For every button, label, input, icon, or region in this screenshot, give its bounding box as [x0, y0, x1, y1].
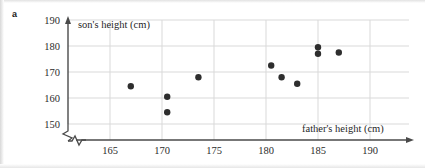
x-axis-title: father's height (cm): [302, 123, 384, 135]
data-point: [294, 81, 300, 87]
y-axis: [63, 16, 72, 141]
data-point: [278, 74, 284, 80]
data-point: [315, 44, 321, 50]
y-tick-label: 170: [44, 67, 60, 78]
x-tick-label: 165: [102, 145, 118, 156]
data-point: [128, 83, 134, 89]
data-point: [268, 62, 274, 68]
x-axis-arrowhead: [406, 137, 414, 143]
y-tick-label: 180: [44, 41, 60, 52]
x-axis-tick-labels: 165170175180185190: [102, 145, 378, 156]
y-tick-label: 150: [44, 119, 60, 130]
scatter-data-points: [128, 44, 342, 115]
data-point: [195, 74, 201, 80]
x-tick-label: 180: [258, 145, 274, 156]
data-point: [164, 109, 170, 115]
x-tick-label: 170: [154, 145, 170, 156]
y-axis-break-zigzag: [63, 124, 72, 141]
x-axis: [68, 136, 414, 145]
y-axis-title: son's height (cm): [78, 19, 150, 31]
data-point: [315, 51, 321, 57]
scatter-plot: 150160170180190 165170175180185190 son's…: [0, 0, 425, 168]
figure-container: a 150160170180190 165170175180185190 son…: [0, 0, 425, 168]
x-tick-label: 190: [362, 145, 378, 156]
x-tick-label: 175: [206, 145, 222, 156]
horizontal-gridlines: [68, 20, 409, 124]
y-axis-tick-labels: 150160170180190: [44, 15, 60, 130]
x-tick-label: 185: [310, 145, 326, 156]
vertical-gridlines: [110, 20, 370, 140]
y-tick-label: 160: [44, 93, 60, 104]
y-tick-label: 190: [44, 15, 60, 26]
data-point: [336, 49, 342, 55]
data-point: [164, 94, 170, 100]
